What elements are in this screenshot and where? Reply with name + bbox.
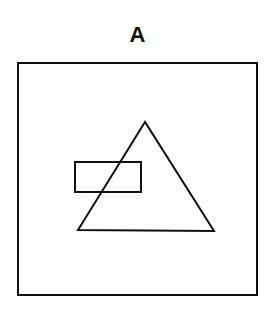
outer-square [18, 63, 257, 295]
figure-canvas [0, 0, 267, 313]
small-rectangle [75, 162, 141, 192]
triangle [78, 122, 214, 231]
